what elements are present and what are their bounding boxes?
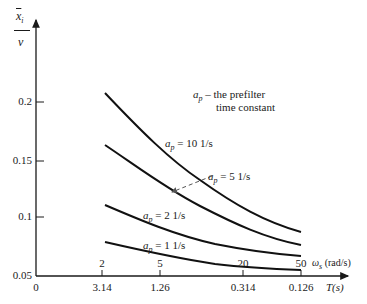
x-tick-period: 3.14: [92, 282, 111, 293]
series-label-ap-10: ap = 10 1/s: [165, 138, 213, 149]
x-tick-omega: 50: [296, 258, 307, 269]
x-tick-omega: 20: [238, 258, 249, 269]
x-tick-period: 1.26: [150, 282, 169, 293]
y-ticks: [36, 102, 44, 217]
y-tick-label: 0.15: [2, 155, 32, 166]
y-label-denominator: v: [18, 36, 23, 48]
y-axis-label: xi: [16, 10, 24, 22]
curve-ap-1: [105, 242, 301, 270]
legend-annotation-line2: time constant: [216, 102, 275, 113]
series-label-ap-2: ap = 2 1/s: [143, 210, 185, 221]
curve-ap-5: [105, 145, 301, 245]
y-tick-label: 0.1: [2, 211, 32, 222]
y-label-fraction-bar: [14, 30, 30, 31]
series-label-ap-1: ap = 1 1/s: [143, 240, 185, 251]
y-label-subscript: i: [21, 16, 23, 25]
x-tick-period: 0: [33, 282, 39, 293]
x-tick-omega: 5: [157, 258, 163, 269]
curve-ap-10: [105, 93, 301, 232]
x-tick-omega: 2: [99, 258, 105, 269]
x-tick-period: 0.314: [231, 282, 256, 293]
series-label-ap-5: ap = 5 1/s: [208, 171, 250, 182]
y-tick-label: 0.05: [2, 270, 32, 281]
x-ticks: [102, 270, 301, 276]
legend-annotation: ap – the prefilter: [193, 89, 265, 100]
y-tick-label: 0.2: [2, 96, 32, 107]
x-axis-period-label: T(s): [326, 282, 344, 293]
x-tick-period: 0.126: [289, 282, 314, 293]
x-axis-omega-label: ωs (rad/s): [312, 258, 351, 268]
